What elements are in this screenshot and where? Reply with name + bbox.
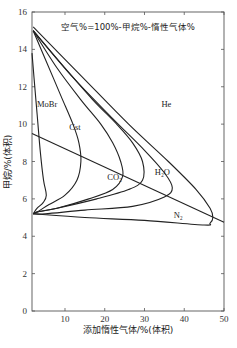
y-tick-label: 16 — [18, 7, 28, 17]
plot-frame — [32, 12, 224, 311]
x-tick-label: 50 — [220, 314, 230, 324]
series-line-n2 — [33, 31, 172, 214]
chart-title: 空气%=100%-甲烷%-惰性气体% — [61, 22, 195, 32]
series-line-mobr — [32, 53, 46, 214]
series-label: H₂O — [155, 167, 170, 177]
y-tick-label: 2 — [23, 269, 28, 279]
series-label: N₂ — [174, 210, 183, 220]
y-tick-label: 0 — [23, 306, 28, 316]
chart: 10203040500246810121416 MoBrCstCO₂H₂OHeN… — [0, 0, 237, 348]
series-label: Cst — [69, 122, 81, 132]
y-tick-label: 14 — [18, 44, 28, 54]
x-tick-label: 30 — [140, 314, 150, 324]
y-axis-title: 甲烷/%(体积) — [2, 135, 13, 190]
x-tick-label: 20 — [100, 314, 110, 324]
x-axis-title: 添加惰性气体/%(体积) — [83, 324, 174, 335]
y-tick-label: 10 — [18, 119, 28, 129]
y-tick-label: 12 — [18, 82, 27, 92]
y-tick-label: 6 — [23, 194, 28, 204]
x-tick-label: 10 — [60, 314, 70, 324]
series-line-air-line — [32, 133, 224, 222]
series-line-he — [33, 27, 213, 225]
series-label: MoBr — [37, 99, 57, 109]
y-tick-label: 4 — [23, 231, 28, 241]
x-tick-label: 40 — [180, 314, 190, 324]
series-label: He — [161, 99, 171, 109]
y-tick-label: 8 — [23, 157, 28, 167]
series-label: CO₂ — [107, 172, 122, 182]
